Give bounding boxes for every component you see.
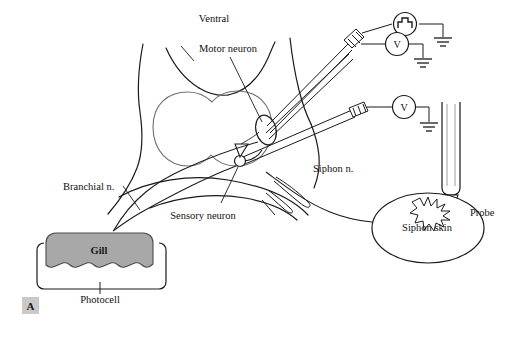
mantle-curve-upper-left bbox=[166, 48, 199, 88]
electrode-2-upper-edge bbox=[266, 54, 349, 133]
voltmeter-sensory-ground-icon bbox=[420, 123, 438, 131]
motor-neuron-microelectrode-pair bbox=[266, 29, 364, 139]
label-photocell: Photocell bbox=[80, 295, 120, 306]
voltmeter-sensory: V bbox=[393, 96, 416, 119]
label-sensory-neuron: Sensory neuron bbox=[170, 211, 236, 222]
siphon-nerve bbox=[266, 172, 372, 222]
label-gill: Gill bbox=[91, 245, 108, 256]
abdominal-ganglion bbox=[153, 91, 272, 166]
nerves-group bbox=[113, 142, 372, 231]
label-siphon-skin: Siphon skin bbox=[402, 223, 452, 234]
motor-neuron-leader-left bbox=[181, 46, 194, 61]
label-branchial-nerve: Branchial n. bbox=[63, 182, 114, 193]
voltmeter-motor-ground-icon bbox=[414, 59, 432, 67]
gill-photocell-group bbox=[37, 233, 166, 294]
label-siphon-nerve: Siphon n. bbox=[313, 164, 353, 175]
panel-letter-a: A bbox=[22, 297, 39, 314]
sensory-neuron-leader bbox=[221, 167, 238, 203]
wire-stimulator-to-ground bbox=[419, 24, 443, 37]
wire-electrode-to-stimulator bbox=[362, 24, 392, 33]
voltmeter-motor: V bbox=[386, 33, 409, 56]
motor-neuron-leader bbox=[230, 57, 262, 122]
ganglion-outline bbox=[153, 91, 272, 166]
stimulator-ground-icon bbox=[434, 38, 452, 46]
nerve-branch-3 bbox=[262, 200, 275, 215]
electrode-2-lower-edge bbox=[269, 59, 353, 139]
label-motor-neuron: Motor neuron bbox=[199, 44, 257, 55]
wire-sensory-voltmeter-to-ground bbox=[416, 107, 429, 122]
wire-voltmeter-to-ground bbox=[409, 44, 423, 58]
body-wall-right-upper bbox=[290, 38, 311, 124]
label-probe: Probe bbox=[470, 208, 495, 219]
diagram-canvas: V V bbox=[0, 0, 515, 338]
voltmeter-motor-glyph: V bbox=[393, 39, 401, 50]
mantle-curve-center-left bbox=[199, 88, 228, 95]
electrode-1-upper-edge bbox=[267, 44, 348, 126]
voltmeter-sensory-glyph: V bbox=[400, 102, 408, 113]
figure-panel-a: V V bbox=[0, 0, 515, 338]
probe-body bbox=[442, 102, 460, 195]
label-ventral: Ventral bbox=[199, 14, 229, 25]
